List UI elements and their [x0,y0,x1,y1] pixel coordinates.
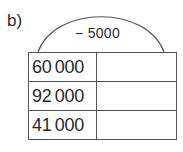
input-cell: 41 000 [29,111,97,140]
input-cell: 92 000 [29,82,97,111]
table-row: 60 000 [29,53,177,82]
table-row: 92 000 [29,82,177,111]
table-row: 41 000 [29,111,177,140]
answer-cell[interactable] [97,82,177,111]
answer-cell[interactable] [97,53,177,82]
number-table: 60 000 92 000 41 000 [28,52,177,140]
input-cell: 60 000 [29,53,97,82]
answer-cell[interactable] [97,111,177,140]
operation-text: − 5000 [75,25,120,41]
